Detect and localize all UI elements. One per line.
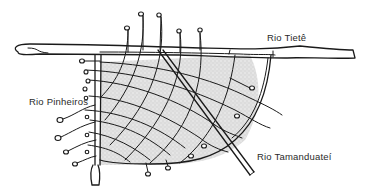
label-rio-pinheiros: Rio Pinheiros (29, 96, 88, 107)
left-terminals (55, 59, 100, 166)
label-rio-tamanduatei: Rio Tamanduateí (257, 151, 332, 162)
river-tiete (15, 44, 355, 58)
label-rio-tiete: Rio Tietê (267, 32, 306, 43)
